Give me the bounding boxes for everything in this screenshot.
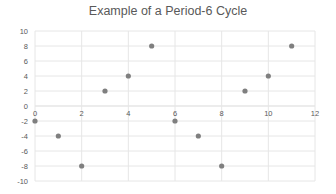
scatter-plot: 1086420-2-4-6-8-10024681012	[0, 0, 336, 194]
x-tick-label: 10	[264, 109, 272, 118]
data-point	[172, 118, 177, 123]
data-point	[266, 73, 271, 78]
y-tick-label: 6	[24, 57, 28, 66]
data-point	[79, 163, 84, 168]
data-point	[219, 163, 224, 168]
y-tick-label: 2	[24, 87, 28, 96]
x-tick-label: 0	[33, 109, 37, 118]
x-tick-label: 8	[220, 109, 224, 118]
y-tick-label: -10	[17, 177, 28, 186]
data-point	[56, 133, 61, 138]
y-tick-label: -4	[21, 132, 28, 141]
data-point	[32, 118, 37, 123]
x-tick-label: 12	[311, 109, 319, 118]
data-point	[102, 88, 107, 93]
y-tick-label: 4	[24, 72, 28, 81]
data-point	[196, 133, 201, 138]
data-point	[289, 43, 294, 48]
x-tick-label: 6	[173, 109, 177, 118]
y-tick-label: 8	[24, 42, 28, 51]
data-point	[126, 73, 131, 78]
y-tick-label: -6	[21, 147, 28, 156]
x-tick-label: 4	[126, 109, 130, 118]
data-point	[242, 88, 247, 93]
x-tick-label: 2	[80, 109, 84, 118]
y-tick-label: 0	[24, 102, 28, 111]
y-tick-label: -2	[21, 117, 28, 126]
y-tick-label: 10	[20, 27, 28, 36]
data-point	[149, 43, 154, 48]
y-tick-label: -8	[21, 162, 28, 171]
